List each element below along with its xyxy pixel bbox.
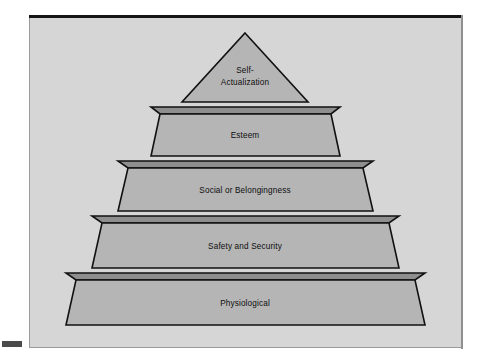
tier-top-face-social-or-belongingness (118, 161, 373, 168)
pyramid-tier-esteem[interactable]: Esteem (151, 107, 340, 156)
tier-label-social-or-belongingness: Social or Belongingness (199, 186, 290, 195)
pyramid-tier-physiological[interactable]: Physiological (66, 273, 425, 325)
figure-root: Physiological Safety and Security Social… (0, 0, 481, 364)
tier-label-self-actualization-line1: Self- (236, 66, 254, 75)
tier-top-face-esteem (151, 107, 340, 114)
crop-register-mark (2, 341, 22, 347)
pyramid-svg: Physiological Safety and Security Social… (29, 15, 462, 348)
tier-label-esteem: Esteem (231, 131, 260, 140)
pyramid-tier-safety-and-security[interactable]: Safety and Security (92, 216, 399, 268)
tier-label-safety-and-security: Safety and Security (208, 242, 283, 251)
pyramid-diagram: Physiological Safety and Security Social… (29, 15, 462, 348)
tier-top-face-safety-and-security (92, 216, 399, 223)
tier-top-face-physiological (66, 273, 425, 280)
pyramid-tier-social-or-belongingness[interactable]: Social or Belongingness (118, 161, 373, 211)
tier-label-physiological: Physiological (220, 299, 270, 308)
tier-label-self-actualization-line2: Actualization (221, 78, 270, 87)
pyramid-tier-self-actualization[interactable]: Self- Actualization (182, 33, 308, 102)
